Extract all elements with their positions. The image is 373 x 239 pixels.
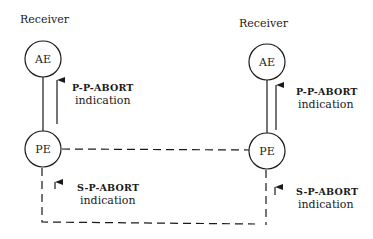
left-sp-abort-indication: indication bbox=[80, 194, 136, 207]
left-sp-abort-label: S-P-ABORT bbox=[77, 182, 139, 193]
right-pp-abort-indication: indication bbox=[298, 98, 354, 111]
left-receiver-label: Receiver bbox=[20, 13, 70, 26]
left-pp-abort-label: P-P-ABORT bbox=[72, 82, 134, 93]
left-lower-dashed-path bbox=[42, 168, 255, 224]
right-pp-abort-label: P-P-ABORT bbox=[296, 86, 358, 97]
abort-indication-diagram: Receiver AE P-P-ABORT indication PE S-P-… bbox=[0, 0, 373, 239]
right-pe-node: PE bbox=[249, 133, 285, 169]
right-sp-abort-indication: indication bbox=[298, 198, 354, 211]
left-pp-abort-indication: indication bbox=[75, 94, 131, 107]
left-ae-label: AE bbox=[34, 53, 51, 66]
right-sp-abort-label: S-P-ABORT bbox=[296, 186, 358, 197]
right-ae-label: AE bbox=[258, 56, 275, 69]
right-receiver-label: Receiver bbox=[239, 17, 289, 30]
right-ae-node: AE bbox=[249, 44, 285, 80]
left-pe-node: PE bbox=[25, 131, 61, 167]
right-pe-label: PE bbox=[259, 145, 274, 158]
left-pe-label: PE bbox=[35, 143, 50, 156]
left-ae-node: AE bbox=[25, 41, 61, 77]
pe-pe-dashed-link bbox=[62, 149, 249, 150]
